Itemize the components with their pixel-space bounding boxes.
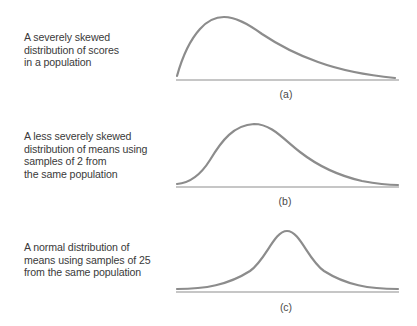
panel-a-graph: [176, 17, 399, 80]
panel-a-curve: [177, 17, 395, 78]
panel-b-label: (b): [270, 195, 300, 207]
panel-b-graph: [176, 124, 399, 187]
panel-b-curve: [177, 124, 398, 185]
panel-c-graph: [176, 231, 399, 292]
panel-c-curve: [177, 231, 398, 289]
distribution-curves: [0, 0, 417, 326]
panel-a-label: (a): [271, 88, 301, 100]
panel-c-label: (c): [271, 301, 301, 313]
